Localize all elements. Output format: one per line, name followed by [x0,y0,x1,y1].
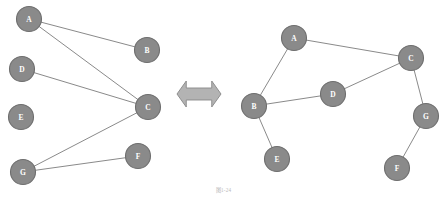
graph-node[interactable]: B [135,38,160,63]
node-label: E [18,113,23,122]
graph-node[interactable]: B [242,94,267,119]
graph-node[interactable]: A [17,7,42,32]
double-arrow-icon [177,81,221,107]
node-label: B [144,46,149,55]
graph-node[interactable]: G [11,160,36,185]
graph-edge [29,19,147,50]
node-label: A [291,34,297,43]
graph-node[interactable]: G [414,104,439,129]
graph-edge [294,38,411,58]
graph-node[interactable]: F [126,144,151,169]
node-label: G [20,168,26,177]
node-label: F [136,152,141,161]
node-label: C [408,54,413,63]
graph-node[interactable]: E [265,147,290,172]
figure-container: ABDCEFGACDBGEF 图1-24 [0,0,447,201]
node-label: A [26,15,32,24]
figure-caption: 图1-24 [0,186,447,193]
edges-layer [22,19,426,172]
nodes-layer: ABDCEFGACDBGEF [9,7,439,185]
graph-edge [23,156,138,172]
node-label: E [274,155,279,164]
node-label: B [251,102,256,111]
node-label: D [19,65,25,74]
equivalence-arrow-layer [177,81,221,107]
graph-node[interactable]: D [321,82,346,107]
node-label: F [395,164,400,173]
node-label: C [145,103,150,112]
graph-node[interactable]: C [136,95,161,120]
graph-node[interactable]: C [399,46,424,71]
node-label: G [423,112,429,121]
graph-edge [29,19,148,107]
graph-diagram-canvas: ABDCEFGACDBGEF [0,0,447,201]
graph-node[interactable]: E [9,105,34,130]
graph-node[interactable]: D [10,57,35,82]
graph-edge [22,69,148,107]
graph-node[interactable]: A [282,26,307,51]
graph-node[interactable]: F [385,156,410,181]
node-label: D [330,90,336,99]
